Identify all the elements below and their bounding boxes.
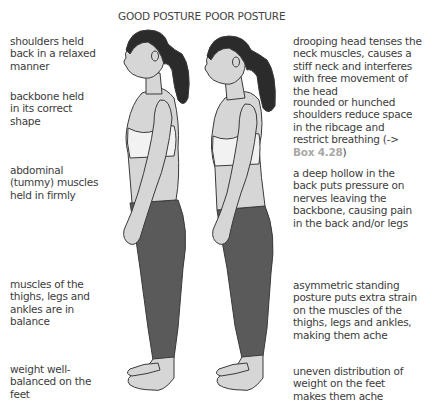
poor-label-legs: asymmetric standing posture puts extra s… [293, 279, 418, 341]
good-posture-title: GOOD POSTURE [118, 10, 201, 22]
poor-label-shoulders-text: rounded or hunched shoulders reduce spac… [293, 96, 412, 145]
good-label-weight: weight well-balanced on the feet [10, 363, 110, 400]
poor-posture-figure [195, 28, 285, 416]
box-reference-link[interactable]: Box 4.28 [293, 146, 343, 158]
good-label-shoulders: shoulders held back in a relaxed manner [10, 35, 105, 72]
good-label-muscles: muscles of the thighs, legs and ankles a… [10, 278, 105, 328]
poor-label-shoulders: rounded or hunched shoulders reduce spac… [293, 96, 421, 158]
poor-label-shoulders-close: ) [343, 146, 347, 158]
poor-label-feet: uneven distribution of weight on the fee… [293, 365, 418, 402]
poor-label-head: drooping head tenses the neck muscles, c… [293, 35, 423, 97]
good-posture-figure [108, 28, 198, 416]
good-label-backbone: backbone held in its correct shape [10, 90, 95, 127]
poor-label-back: a deep hollow in the back puts pressure … [293, 167, 418, 229]
good-label-abdominal: abdominal (tummy) muscles held in firmly [10, 164, 105, 201]
poor-posture-title: POOR POSTURE [205, 10, 285, 22]
